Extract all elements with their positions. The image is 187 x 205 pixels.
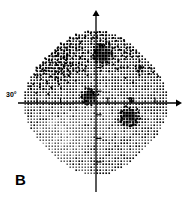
- visual-field-figure: 30° B: [0, 0, 187, 205]
- visual-field-plot: [0, 0, 187, 205]
- panel-letter-label: B: [15, 172, 26, 187]
- vertical-axis-arrow-icon: [93, 10, 100, 16]
- horizontal-axis-arrow-icon: [176, 100, 182, 107]
- axis-degree-label: 30°: [6, 91, 17, 98]
